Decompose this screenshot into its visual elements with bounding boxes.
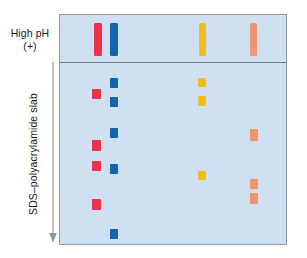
lane-yellow-band-2 [198, 96, 206, 106]
lane-yellow-band-3 [198, 171, 206, 180]
lane-orange-band-2 [250, 179, 258, 189]
lane-red-band-2 [92, 140, 101, 151]
lane-yellow-band-1 [198, 78, 206, 87]
lane-yellow-origin-band [199, 23, 206, 56]
sds-page-figure: High pH (+) SDS–polyacrylamide slab [0, 0, 307, 258]
lane-red-band-4 [92, 199, 101, 210]
positive-polarity-text: (+) [2, 40, 58, 53]
lane-orange-band-3 [250, 193, 258, 204]
direction-of-migration-arrow-icon [47, 62, 59, 244]
lane-blue-band-5 [110, 229, 118, 239]
lane-orange-band-1 [250, 129, 258, 141]
high-ph-text: High pH [11, 27, 50, 39]
gel-well-divider [60, 62, 286, 63]
high-ph-label: High pH (+) [2, 27, 58, 52]
lane-blue-band-3 [110, 128, 118, 138]
lane-orange-origin-band [250, 23, 257, 56]
gel-slab [59, 14, 287, 245]
lane-blue-band-2 [110, 97, 118, 107]
slab-label: SDS–polyacrylamide slab [24, 64, 42, 244]
lane-blue-origin-band [110, 23, 118, 56]
slab-label-text: SDS–polyacrylamide slab [27, 93, 39, 215]
lane-blue-band-1 [110, 78, 118, 88]
lane-blue-band-4 [110, 164, 118, 174]
lane-red-origin-band [94, 23, 102, 56]
lane-red-band-1 [92, 89, 101, 99]
lane-red-band-3 [92, 161, 101, 171]
